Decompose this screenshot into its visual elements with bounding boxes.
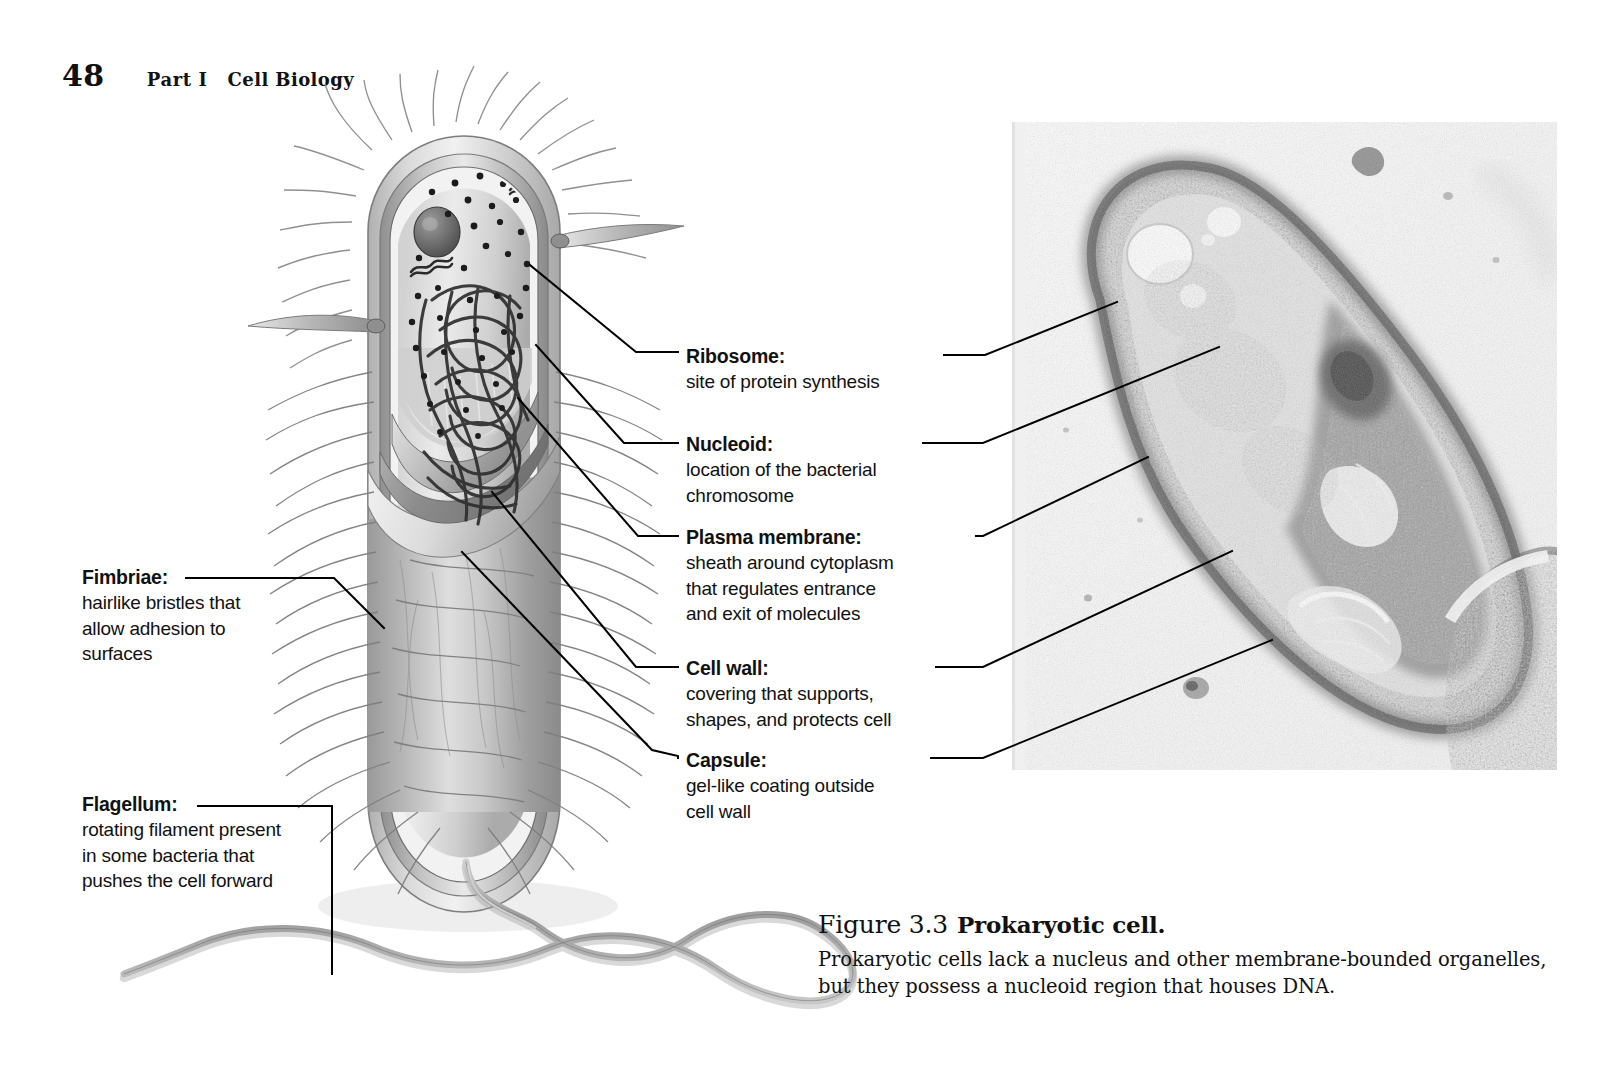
- figure-number: Figure 3.3: [818, 910, 948, 939]
- capsule-layer: [368, 136, 560, 912]
- label-flagellum-term: Flagellum:: [82, 792, 281, 817]
- nucleoid-dna: [420, 286, 528, 524]
- micrograph-debris: [1063, 147, 1500, 699]
- label-flagellum: Flagellum: rotating filament present in …: [82, 792, 281, 894]
- leader-plasma-right: [976, 457, 1148, 536]
- plasmid-strand: [411, 258, 452, 276]
- label-flagellum-desc-1: in some bacteria that: [82, 843, 281, 869]
- label-plasma-membrane-term: Plasma membrane:: [686, 525, 894, 550]
- plasmid: [414, 207, 460, 257]
- leader-ribosome-left: [530, 265, 678, 352]
- label-cell-wall-desc-1: shapes, and protects cell: [686, 707, 891, 733]
- label-fimbriae: Fimbriae: hairlike bristles that allow a…: [82, 565, 240, 667]
- micrograph-adjacent-cell: [1445, 551, 1560, 770]
- label-capsule-term: Capsule:: [686, 748, 874, 773]
- leader-cellwall-right: [936, 551, 1232, 667]
- label-plasma-membrane: Plasma membrane: sheath around cytoplasm…: [686, 525, 894, 627]
- label-flagellum-desc-2: pushes the cell forward: [82, 868, 281, 894]
- cutaway-section: [368, 348, 560, 557]
- label-capsule: Capsule: gel-like coating outside cell w…: [686, 748, 874, 824]
- figure-caption-line-0: Prokaryotic cells lack a nucleus and oth…: [818, 946, 1578, 973]
- label-fimbriae-desc-1: allow adhesion to: [82, 616, 240, 642]
- label-nucleoid-term: Nucleoid:: [686, 432, 876, 457]
- cell-body-lower: [368, 470, 560, 812]
- pili: [248, 224, 684, 333]
- label-fimbriae-desc-2: surfaces: [82, 641, 240, 667]
- ribosomes: [409, 173, 530, 439]
- label-plasma-membrane-desc-2: and exit of molecules: [686, 601, 894, 627]
- label-cell-wall-desc-0: covering that supports,: [686, 681, 891, 707]
- plasmid-strand-2: [510, 176, 544, 194]
- page-number: 48: [62, 58, 105, 93]
- cell-interior-contents: [409, 173, 544, 524]
- label-nucleoid-desc-1: chromosome: [686, 483, 876, 509]
- figure-caption: Figure 3.3Prokaryotic cell. Prokaryotic …: [818, 908, 1578, 1000]
- fimbriae-back: [278, 66, 646, 368]
- cytoplasm-layer: [398, 189, 530, 858]
- label-fimbriae-desc-0: hairlike bristles that: [82, 590, 240, 616]
- leader-cellwall-left: [492, 492, 678, 667]
- figure-title: Prokaryotic cell.: [957, 911, 1166, 938]
- label-nucleoid-desc-0: location of the bacterial: [686, 457, 876, 483]
- fimbriae-front: [266, 372, 662, 894]
- label-plasma-membrane-desc-0: sheath around cytoplasm: [686, 550, 894, 576]
- label-cell-wall-term: Cell wall:: [686, 656, 891, 681]
- label-cell-wall: Cell wall: covering that supports, shape…: [686, 656, 891, 732]
- label-fimbriae-term: Fimbriae:: [82, 565, 240, 590]
- figure-caption-line-1: but they possess a nucleoid region that …: [818, 973, 1578, 1000]
- leader-ribosome-right: [944, 302, 1117, 355]
- label-plasma-membrane-desc-1: that regulates entrance: [686, 576, 894, 602]
- label-nucleoid: Nucleoid: location of the bacterial chro…: [686, 432, 876, 508]
- label-ribosome: Ribosome: site of protein synthesis: [686, 344, 880, 395]
- cell-wall-layer: [380, 154, 548, 896]
- label-flagellum-desc-0: rotating filament present: [82, 817, 281, 843]
- leader-capsule-left: [462, 552, 678, 758]
- running-head: 48 Part I Cell Biology: [62, 58, 354, 93]
- label-ribosome-desc-0: site of protein synthesis: [686, 369, 880, 395]
- label-capsule-desc-1: cell wall: [686, 799, 874, 825]
- leader-plasma-left: [518, 398, 678, 536]
- figure-caption-body: Prokaryotic cells lack a nucleus and oth…: [818, 946, 1578, 1000]
- part-label: Part I: [147, 69, 208, 90]
- label-capsule-desc-0: gel-like coating outside: [686, 773, 874, 799]
- figure-page: 48 Part I Cell Biology: [0, 0, 1624, 1066]
- leader-nucleoid-right: [923, 347, 1219, 443]
- label-ribosome-term: Ribosome:: [686, 344, 880, 369]
- figure-caption-heading: Figure 3.3Prokaryotic cell.: [818, 908, 1578, 942]
- plasma-membrane-layer: [390, 167, 538, 882]
- leader-nucleoid-left: [536, 345, 678, 443]
- micrograph-bacterium: [1091, 165, 1528, 729]
- leader-capsule-right: [931, 640, 1272, 758]
- micrograph-image: [1012, 122, 1560, 770]
- part-title: Cell Biology: [228, 69, 354, 90]
